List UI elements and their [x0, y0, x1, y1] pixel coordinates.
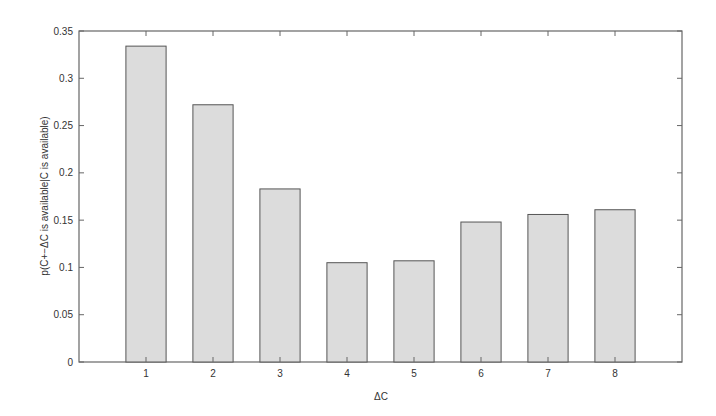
bar-chart: 00.050.10.150.20.250.30.35 12345678 ΔC p…	[0, 0, 716, 416]
bar-4	[327, 263, 367, 362]
x-tick-label: 6	[478, 368, 484, 379]
bars	[126, 46, 635, 362]
bar-8	[595, 210, 635, 362]
bar-3	[260, 189, 300, 362]
x-tick-label: 4	[344, 368, 350, 379]
y-tick-label: 0.05	[54, 309, 74, 320]
x-tick-label: 3	[277, 368, 283, 379]
bar-7	[528, 214, 568, 362]
x-tick-label: 8	[612, 368, 618, 379]
bar-1	[126, 46, 166, 362]
y-tick-label: 0	[67, 357, 73, 368]
axes-frame	[79, 31, 682, 362]
x-tick-label: 2	[210, 368, 216, 379]
y-tick-label: 0.15	[54, 215, 74, 226]
y-axis-label: p(C+−ΔC is available|C is available)	[39, 116, 50, 275]
y-tick-label: 0.3	[59, 73, 73, 84]
y-tick-label: 0.35	[54, 26, 74, 37]
x-axis-label: ΔC	[374, 391, 388, 402]
x-tick-label: 5	[411, 368, 417, 379]
bar-5	[394, 261, 434, 362]
y-tick-label: 0.1	[59, 262, 73, 273]
y-tick-label: 0.25	[54, 120, 74, 131]
x-tick-label: 7	[545, 368, 551, 379]
x-tick-label: 1	[143, 368, 149, 379]
plot-area	[79, 31, 682, 362]
bar-6	[461, 222, 501, 362]
y-tick-label: 0.2	[59, 167, 73, 178]
bar-2	[193, 105, 233, 362]
